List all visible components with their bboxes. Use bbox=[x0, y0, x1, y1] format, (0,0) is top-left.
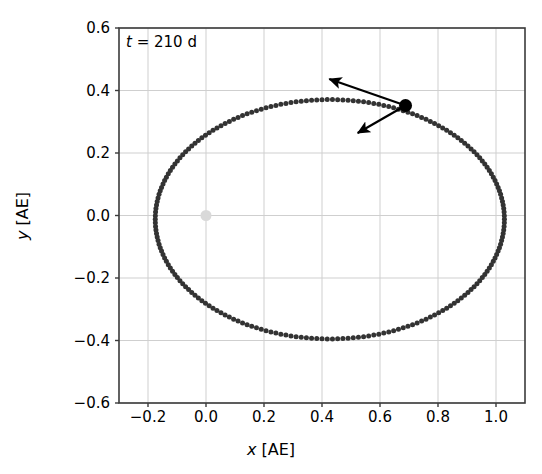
orbit-point bbox=[283, 101, 288, 106]
orbit-point bbox=[335, 97, 340, 102]
orbit-point bbox=[386, 329, 391, 334]
orbit-point bbox=[283, 333, 288, 338]
orbit-point bbox=[299, 335, 304, 340]
orbit-point bbox=[376, 332, 381, 337]
orbit-point bbox=[273, 331, 278, 336]
orbit-point bbox=[371, 333, 376, 338]
x-tick-label: 0.6 bbox=[368, 408, 392, 426]
x-tick-label: −0.2 bbox=[130, 408, 166, 426]
time-annotation: t = 210 d bbox=[126, 33, 197, 51]
orbit-point bbox=[227, 119, 232, 124]
x-tick-label: 1.0 bbox=[484, 408, 508, 426]
orbit-point bbox=[376, 102, 381, 107]
orbit-point bbox=[294, 99, 299, 104]
orbit-point bbox=[320, 97, 325, 102]
orbit-point bbox=[371, 101, 376, 106]
orbit-point bbox=[236, 319, 241, 324]
orbit-point bbox=[268, 104, 273, 109]
x-axis-label-unit: [AE] bbox=[262, 440, 296, 459]
orbit-point bbox=[410, 322, 415, 327]
orbit-point bbox=[424, 317, 429, 322]
orbit-point bbox=[391, 328, 396, 333]
orbit-point bbox=[361, 334, 366, 339]
orbit-point bbox=[309, 98, 314, 103]
orbit-point bbox=[346, 336, 351, 341]
y-axis-label-variable: y bbox=[13, 231, 32, 240]
x-tick-label: 0.8 bbox=[426, 408, 450, 426]
orbit-point bbox=[325, 336, 330, 341]
y-tick-label: 0.2 bbox=[86, 144, 110, 162]
orbit-point bbox=[304, 98, 309, 103]
orbit-point bbox=[278, 102, 283, 107]
orbit-point bbox=[259, 107, 264, 112]
orbit-point bbox=[254, 108, 259, 113]
y-tick-label: −0.6 bbox=[74, 394, 110, 412]
orbit-point bbox=[335, 336, 340, 341]
orbit-point bbox=[340, 97, 345, 102]
y-tick-label: 0.0 bbox=[86, 207, 110, 225]
orbit-point bbox=[410, 111, 415, 116]
orbit-point bbox=[346, 98, 351, 103]
orbit-point bbox=[264, 105, 269, 110]
y-tick-label: −0.2 bbox=[74, 269, 110, 287]
x-tick-label: 0.2 bbox=[252, 408, 276, 426]
orbit-point bbox=[304, 335, 309, 340]
orbit-point bbox=[330, 97, 335, 102]
orbit-point bbox=[249, 110, 254, 115]
orbit-point bbox=[401, 325, 406, 330]
orbit-point bbox=[366, 333, 371, 338]
orbit-point bbox=[366, 100, 371, 105]
orbit-point bbox=[249, 324, 254, 329]
orbit-point bbox=[227, 315, 232, 320]
annotation-text: = 210 d bbox=[132, 33, 197, 51]
x-tick-label: 0.0 bbox=[194, 408, 218, 426]
orbit-point bbox=[396, 327, 401, 332]
orbit-point bbox=[405, 324, 410, 329]
orbit-point bbox=[240, 113, 245, 118]
orbit-point bbox=[231, 317, 236, 322]
orbit-point bbox=[273, 103, 278, 108]
y-tick-label: 0.6 bbox=[86, 19, 110, 37]
orbit-point bbox=[330, 336, 335, 341]
orbit-point bbox=[419, 319, 424, 324]
orbit-point bbox=[381, 331, 386, 336]
orbit-point bbox=[432, 121, 437, 126]
orbit-point bbox=[502, 220, 507, 225]
orbit-point bbox=[314, 336, 319, 341]
orbit-point bbox=[288, 100, 293, 105]
orbit-point bbox=[415, 320, 420, 325]
orbit-point bbox=[231, 117, 236, 122]
orbit-point bbox=[254, 325, 259, 330]
orbit-plot-figure: t = 210 d x [AE] y [AE] −0.20.00.20.40.6… bbox=[0, 0, 542, 474]
orbit-point bbox=[259, 327, 264, 332]
orbit-point bbox=[391, 105, 396, 110]
central-body bbox=[201, 210, 212, 221]
orbit-point bbox=[424, 117, 429, 122]
orbit-point bbox=[351, 335, 356, 340]
orbit-point bbox=[325, 97, 330, 102]
orbit-point bbox=[381, 103, 386, 108]
orbit-point bbox=[361, 99, 366, 104]
orbit-point bbox=[428, 315, 433, 320]
orbit-point bbox=[356, 335, 361, 340]
orbit-point bbox=[340, 336, 345, 341]
y-axis-label-unit: [AE] bbox=[13, 192, 32, 226]
orbit-point bbox=[264, 328, 269, 333]
orbit-point bbox=[356, 99, 361, 104]
orbit-point bbox=[415, 113, 420, 118]
x-axis-label-variable: x bbox=[247, 440, 256, 459]
orbit-point bbox=[299, 99, 304, 104]
orbit-point bbox=[428, 119, 433, 124]
orbit-point bbox=[245, 322, 250, 327]
x-axis-label: x [AE] bbox=[0, 440, 542, 459]
orbit-point bbox=[351, 98, 356, 103]
orbit-point bbox=[268, 329, 273, 334]
orbit-point bbox=[223, 313, 228, 318]
orbit-point bbox=[245, 111, 250, 116]
orbit-point bbox=[294, 334, 299, 339]
orbit-point bbox=[309, 336, 314, 341]
orbit-point bbox=[419, 115, 424, 120]
orbit-point bbox=[240, 320, 245, 325]
orbit-point bbox=[278, 332, 283, 337]
orbit-point bbox=[386, 104, 391, 109]
